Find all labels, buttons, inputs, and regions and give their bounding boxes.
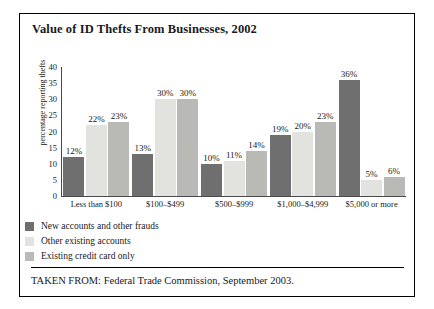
- legend-label: Other existing accounts: [41, 235, 131, 248]
- bar-chart: percentage reporting thefts 051015202530…: [20, 44, 416, 219]
- bar: 14%: [246, 151, 267, 196]
- bar-value-label: 13%: [134, 144, 151, 153]
- y-axis-tick-label: 10: [39, 160, 57, 169]
- divider: [31, 267, 404, 268]
- bar-value-label: 6%: [388, 167, 400, 176]
- y-axis-tick-label: 35: [39, 79, 57, 88]
- bar: 22%: [86, 125, 107, 196]
- figure-title: Value of ID Thefts From Businesses, 2002: [32, 22, 257, 37]
- bar-group: 36%5%6%: [339, 67, 405, 196]
- legend-swatch: [25, 222, 34, 231]
- chart-legend: New accounts and other fraudsOther exist…: [25, 220, 405, 265]
- legend-label: Existing credit card only: [41, 250, 135, 263]
- plot-area: 12%22%23%13%30%30%10%11%14%19%20%23%36%5…: [62, 67, 406, 196]
- bar-value-label: 22%: [88, 115, 105, 124]
- y-axis-ticks: 0510152025303540: [39, 44, 57, 196]
- bar: 11%: [224, 161, 245, 196]
- bar: 10%: [201, 164, 222, 196]
- bar-group: 10%11%14%: [201, 67, 267, 196]
- bar-value-label: 30%: [157, 89, 174, 98]
- legend-item: New accounts and other frauds: [25, 220, 405, 234]
- bar-value-label: 12%: [66, 147, 83, 156]
- bar: 5%: [361, 180, 382, 196]
- bar: 6%: [384, 177, 405, 196]
- x-axis-line: [61, 196, 406, 197]
- x-axis-tick-label: $5,000 or more: [322, 200, 422, 209]
- bar-value-label: 14%: [248, 141, 265, 150]
- bar: 13%: [132, 154, 153, 196]
- bar-value-label: 23%: [111, 112, 128, 121]
- bar-value-label: 19%: [272, 125, 289, 134]
- bar-group: 12%22%23%: [63, 67, 129, 196]
- bar-value-label: 10%: [203, 154, 220, 163]
- y-axis-tick-label: 30: [39, 95, 57, 104]
- y-axis-tick-label: 20: [39, 128, 57, 137]
- y-axis-tick-label: 25: [39, 111, 57, 120]
- legend-swatch: [25, 252, 34, 261]
- bar: 23%: [315, 122, 336, 196]
- bar-value-label: 11%: [226, 151, 242, 160]
- bar: 30%: [177, 99, 198, 196]
- y-axis-tick-label: 5: [39, 176, 57, 185]
- bar-group: 19%20%23%: [270, 67, 336, 196]
- bar-value-label: 23%: [317, 112, 334, 121]
- y-axis-tick-label: 15: [39, 144, 57, 153]
- bar-value-label: 36%: [341, 70, 358, 79]
- y-axis-tick-label: 40: [39, 63, 57, 72]
- source-caption: TAKEN FROM: Federal Trade Commission, Se…: [31, 275, 294, 286]
- bar-group: 13%30%30%: [132, 67, 198, 196]
- bar-value-label: 5%: [366, 170, 378, 179]
- figure-container: Value of ID Thefts From Businesses, 2002…: [19, 13, 415, 297]
- bar: 20%: [292, 132, 313, 197]
- bar: 12%: [63, 157, 84, 196]
- legend-label: New accounts and other frauds: [41, 220, 159, 233]
- bar-value-label: 20%: [295, 122, 312, 131]
- bar-value-label: 30%: [179, 89, 196, 98]
- bar: 19%: [270, 135, 291, 196]
- legend-item: Other existing accounts: [25, 235, 405, 249]
- bar: 36%: [339, 80, 360, 196]
- bar: 30%: [155, 99, 176, 196]
- bar: 23%: [108, 122, 129, 196]
- legend-swatch: [25, 237, 34, 246]
- legend-item: Existing credit card only: [25, 250, 405, 264]
